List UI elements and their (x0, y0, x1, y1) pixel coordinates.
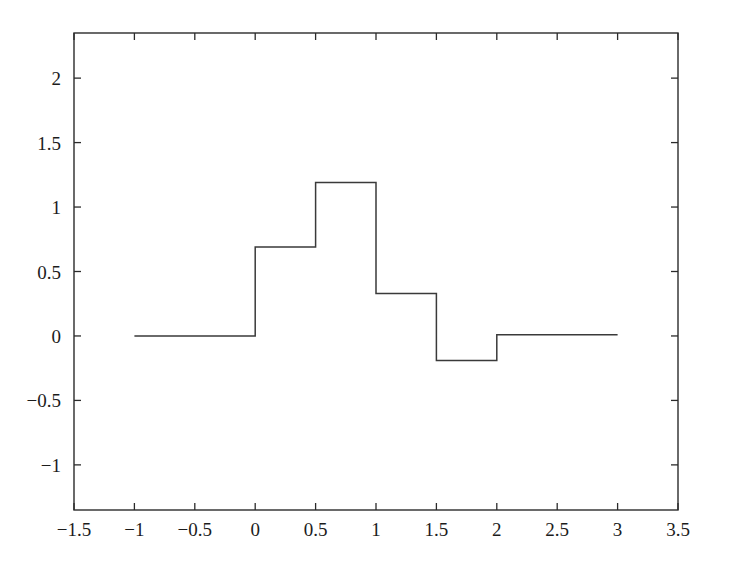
x-axis-tick-labels: −1.5−1−0.500.511.522.533.5 (57, 519, 690, 540)
y-tick-label-6: 2 (52, 68, 62, 89)
x-tick-label-4: 0.5 (304, 519, 328, 540)
x-tick-label-10: 3.5 (666, 519, 690, 540)
x-tick-label-6: 1.5 (425, 519, 449, 540)
y-tick-label-5: 1.5 (37, 133, 61, 154)
x-tick-label-3: 0 (250, 519, 260, 540)
x-tick-label-8: 2.5 (545, 519, 569, 540)
data-series-step-signal (134, 183, 617, 361)
x-tick-label-2: −0.5 (178, 519, 212, 540)
data-series-group (134, 183, 617, 361)
y-tick-label-3: 0.5 (37, 262, 61, 283)
x-tick-label-1: −1 (124, 519, 144, 540)
x-tick-label-0: −1.5 (57, 519, 91, 540)
y-axis-tick-labels: −1−0.500.511.52 (27, 68, 61, 476)
x-tick-label-5: 1 (371, 519, 381, 540)
y-tick-label-2: 0 (52, 326, 62, 347)
y-tick-label-4: 1 (52, 197, 62, 218)
x-tick-label-7: 2 (492, 519, 502, 540)
x-tick-label-9: 3 (613, 519, 623, 540)
step-function-chart: −1.5−1−0.500.511.522.533.5 −1−0.500.511.… (0, 0, 733, 582)
figure-canvas: −1.5−1−0.500.511.522.533.5 −1−0.500.511.… (0, 0, 733, 582)
y-tick-label-1: −0.5 (27, 390, 61, 411)
y-tick-label-0: −1 (41, 455, 61, 476)
